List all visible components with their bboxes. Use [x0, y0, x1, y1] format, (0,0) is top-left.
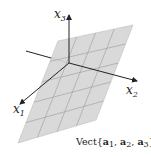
plane-label: Vect{a1, a2, a3} [75, 136, 151, 149]
x3-label: x3 [54, 7, 66, 23]
x1-label: x1 [13, 102, 25, 118]
x2-label: x2 [126, 83, 138, 99]
span-diagram: x3 x2 x1 Vect{a1, a2, a3} [0, 0, 151, 156]
